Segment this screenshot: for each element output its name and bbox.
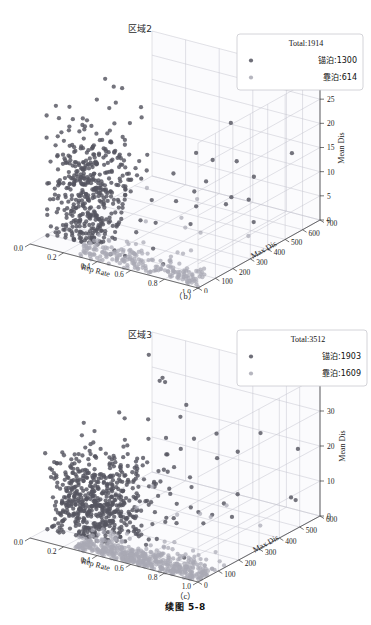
svg-text:0: 0 (327, 512, 331, 521)
caption-b: （b） (0, 289, 371, 301)
x-axis-label: Rep Rate (80, 556, 111, 572)
figure-page: 区域2 0.00.20.40.60.81.0010020030040050060… (0, 0, 371, 625)
svg-text:400: 400 (285, 537, 297, 546)
svg-text:10: 10 (327, 477, 335, 486)
legend-marker-anchoring (249, 58, 253, 62)
book-figure-caption: 续图 5-8 (0, 600, 371, 613)
svg-text:200: 200 (245, 559, 257, 568)
svg-text:600: 600 (309, 229, 321, 238)
svg-text:25: 25 (327, 95, 335, 104)
svg-text:0: 0 (327, 216, 331, 225)
z-axis-label: Mean Dis (338, 430, 347, 461)
legend-entry-label[interactable]: 靠泊:1609 (322, 368, 361, 378)
svg-text:0.0: 0.0 (14, 538, 24, 547)
svg-text:0.0: 0.0 (14, 244, 24, 253)
figure-b: 区域2 0.00.20.40.60.81.0010020030040050060… (0, 0, 371, 310)
svg-text:400: 400 (274, 248, 286, 257)
svg-text:0.2: 0.2 (47, 253, 57, 262)
svg-text:500: 500 (306, 526, 318, 535)
svg-text:0.6: 0.6 (114, 270, 124, 279)
legend-total-label: Total:3512 (291, 335, 326, 344)
legend-entry-label[interactable]: 锚泊:1300 (318, 55, 357, 65)
legend-marker-anchoring (249, 354, 253, 358)
svg-text:30: 30 (327, 407, 335, 416)
svg-text:100: 100 (221, 277, 233, 286)
chart-legend[interactable]: Total:3512锚泊:1903靠泊:1609 (237, 330, 367, 386)
svg-text:20: 20 (327, 442, 335, 451)
legend-total-label: Total:1914 (289, 39, 324, 48)
x-axis-label: Rep Rate (80, 262, 111, 278)
scatter3d-chart-b: 0.00.20.40.60.81.00100200300400500600700… (0, 8, 371, 293)
scatter3d-chart-c: 0.00.20.40.60.81.00100200300400500600010… (0, 314, 371, 594)
svg-text:0.8: 0.8 (148, 279, 158, 288)
svg-text:15: 15 (327, 143, 335, 152)
svg-text:500: 500 (291, 238, 303, 247)
legend-entry-label[interactable]: 锚泊:1903 (322, 351, 361, 361)
legend-marker-berthing (249, 75, 253, 79)
figure-c: 区域3 0.00.20.40.60.81.0010020030040050060… (0, 312, 371, 612)
z-axis-label: Mean Dis (337, 132, 346, 163)
legend-marker-berthing (249, 371, 253, 375)
svg-text:300: 300 (265, 548, 277, 557)
svg-text:300: 300 (256, 258, 268, 267)
svg-text:100: 100 (224, 570, 236, 579)
chart-legend[interactable]: Total:1914锚泊:1300靠泊:614 (237, 34, 363, 90)
svg-text:200: 200 (239, 268, 251, 277)
svg-text:0.8: 0.8 (148, 573, 158, 582)
svg-text:5: 5 (327, 192, 331, 201)
legend-entry-label[interactable]: 靠泊:614 (323, 72, 357, 82)
svg-text:10: 10 (327, 168, 335, 177)
svg-text:20: 20 (327, 119, 335, 128)
svg-text:0.6: 0.6 (114, 564, 124, 573)
svg-text:0.2: 0.2 (47, 547, 57, 556)
